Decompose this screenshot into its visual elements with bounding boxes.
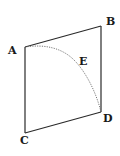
edge-ab: [25, 26, 101, 47]
parallelogram-diagram: A B C D E: [0, 0, 120, 156]
edge-dc: [25, 112, 101, 133]
vertex-label-b: B: [106, 15, 115, 28]
vertex-label-a: A: [7, 44, 17, 57]
parallelogram-edges: [25, 26, 101, 133]
curve-label-e: E: [79, 55, 87, 68]
vertex-label-c: C: [20, 134, 29, 147]
curve-ae-d: [25, 46, 101, 112]
vertex-label-d: D: [103, 112, 113, 125]
